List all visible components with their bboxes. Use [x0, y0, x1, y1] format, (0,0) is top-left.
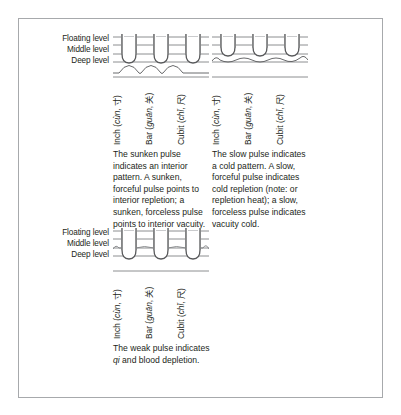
weak-caption-qi: qi	[113, 355, 120, 365]
level-label-floating: Floating level	[31, 33, 109, 44]
level-labels-sunken: Floating level Middle level Deep level	[31, 33, 109, 67]
finger-group	[121, 34, 201, 63]
position-label-inch: Inch (cùn, 寸)	[212, 95, 221, 145]
figure-frame: Floating level Middle level Deep level	[18, 18, 383, 398]
weak-pulse-caption: The weak pulse indicates qi and blood de…	[113, 343, 213, 366]
sunken-pulse-caption: The sunken pulse indicates an interior p…	[113, 149, 209, 230]
weak-pulse-diagram	[113, 227, 209, 277]
sunken-pulse-diagram	[113, 33, 209, 83]
finger-group	[121, 228, 201, 259]
position-label-cubit: Cubit (chǐ, 尺)	[177, 94, 186, 145]
level-label-floating: Floating level	[31, 227, 109, 238]
finger-group	[220, 34, 300, 56]
position-label-cubit: Cubit (chǐ, 尺)	[177, 288, 186, 339]
level-labels-weak: Floating level Middle level Deep level	[31, 227, 109, 261]
position-label-bar: Bar (guān, 关)	[244, 93, 253, 145]
slow-pulse-caption: The slow pulse indicates a cold pattern.…	[212, 149, 312, 230]
level-label-deep: Deep level	[31, 55, 109, 66]
position-label-inch: Inch (cùn, 寸)	[113, 289, 122, 339]
weak-caption-after: and blood depletion.	[120, 355, 200, 365]
position-label-cubit: Cubit (chǐ, 尺)	[276, 94, 285, 145]
level-label-middle: Middle level	[31, 238, 109, 249]
position-label-bar: Bar (guān, 关)	[145, 287, 154, 339]
position-label-inch: Inch (cùn, 寸)	[113, 95, 122, 145]
slow-pulse-diagram	[212, 33, 308, 83]
level-label-middle: Middle level	[31, 44, 109, 55]
level-label-deep: Deep level	[31, 249, 109, 260]
position-label-bar: Bar (guān, 关)	[145, 93, 154, 145]
weak-caption-before: The weak pulse indicates	[113, 343, 210, 353]
